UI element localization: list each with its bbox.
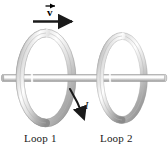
figure-canvas (0, 0, 168, 152)
velocity-label: v (47, 7, 53, 18)
loop-1-caption: Loop 1 (24, 132, 57, 144)
current-label: I (85, 100, 88, 111)
loop-2-caption: Loop 2 (100, 132, 133, 144)
physics-figure: v I Loop 1 Loop 2 (0, 0, 168, 152)
axis-rod (1, 75, 166, 82)
